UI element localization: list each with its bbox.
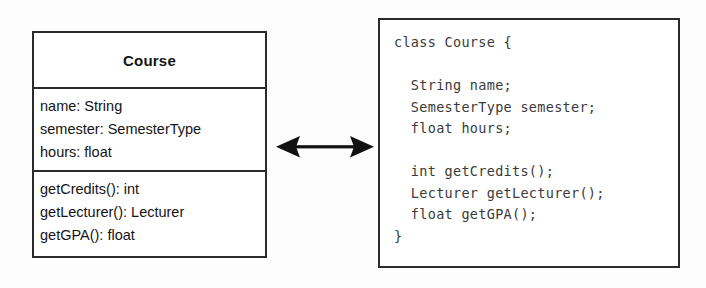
code-line: SemesterType semester; — [394, 97, 668, 119]
uml-attribute-row: semester: SemesterType — [40, 118, 260, 141]
code-block-box: class Course { String name; SemesterType… — [378, 18, 680, 268]
uml-attributes-compartment: name: String semester: SemesterType hour… — [34, 89, 265, 172]
code-line: float hours; — [394, 118, 668, 140]
diagram-canvas: Course name: String semester: SemesterTy… — [0, 0, 706, 288]
code-line: String name; — [394, 75, 668, 97]
code-line-blank — [394, 54, 668, 76]
uml-class-box: Course name: String semester: SemesterTy… — [32, 31, 267, 258]
code-line: int getCredits(); — [394, 161, 668, 183]
uml-operation-row: getGPA(): float — [40, 224, 260, 247]
uml-attribute-row: name: String — [40, 95, 260, 118]
code-line-blank — [394, 140, 668, 162]
uml-operation-row: getCredits(): int — [40, 178, 260, 201]
code-line: class Course { — [394, 32, 668, 54]
uml-class-name: Course — [123, 52, 176, 69]
uml-operations-compartment: getCredits(): int getLecturer(): Lecture… — [34, 172, 265, 256]
uml-operation-row: getLecturer(): Lecturer — [40, 201, 260, 224]
code-line: float getGPA(); — [394, 204, 668, 226]
uml-attribute-row: hours: float — [40, 141, 260, 164]
code-line: } — [394, 226, 668, 248]
double-headed-arrow-icon — [276, 128, 374, 166]
code-line: Lecturer getLecturer(); — [394, 183, 668, 205]
uml-class-title-compartment: Course — [34, 33, 265, 89]
